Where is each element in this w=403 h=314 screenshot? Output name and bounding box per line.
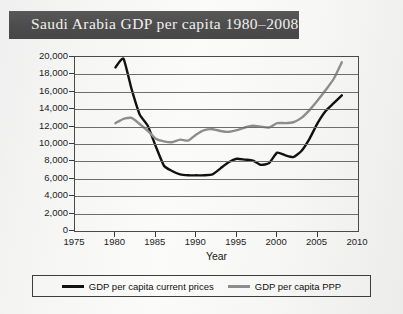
x-axis-tick-label: 2000	[266, 236, 287, 247]
y-axis-tick-mark	[69, 195, 74, 196]
y-axis-tick-label: 12,000	[39, 121, 68, 131]
y-axis-tick-mark	[69, 178, 74, 179]
y-axis-tick-mark	[69, 91, 74, 92]
x-axis-tick-label: 2005	[306, 236, 327, 247]
y-axis-tick-mark	[69, 143, 74, 144]
y-axis-tick-label: 10,000	[39, 138, 68, 148]
x-axis-tick-label: 2010	[346, 236, 367, 247]
x-axis-tick-mark	[276, 232, 277, 237]
gridline	[75, 92, 358, 93]
y-axis-tick-mark	[69, 56, 74, 57]
y-axis-tick-label: 14,000	[39, 103, 68, 113]
gridline	[75, 196, 358, 197]
y-axis-tick-label: 0	[63, 225, 68, 235]
legend-item-ppp: GDP per capita PPP	[228, 281, 341, 292]
gridline	[75, 144, 358, 145]
legend-item-current-prices: GDP per capita current prices	[62, 281, 214, 292]
y-axis-tick-label: 18,000	[39, 68, 68, 78]
gridline	[75, 109, 358, 110]
legend-swatch-ppp	[228, 285, 250, 288]
x-axis-tick-label: 1980	[104, 236, 125, 247]
x-axis-tick-label: 1995	[225, 236, 246, 247]
y-axis-tick-label: 8,000	[44, 155, 68, 165]
y-axis-tick-mark	[69, 160, 74, 161]
y-axis-tick-mark	[69, 213, 74, 214]
y-axis-tick-mark	[69, 73, 74, 74]
y-axis-tick-mark	[69, 126, 74, 127]
plot-area	[74, 56, 359, 232]
x-axis-tick-mark	[317, 232, 318, 237]
y-axis-tick-label: 2,000	[44, 208, 68, 218]
series-line-current-prices	[115, 59, 341, 176]
legend-swatch-current-prices	[62, 285, 84, 288]
gridline	[75, 74, 358, 75]
y-axis-tick-label: 20,000	[39, 51, 68, 61]
chart-legend: GDP per capita current prices GDP per ca…	[32, 275, 371, 297]
gridline	[75, 161, 358, 162]
y-axis-tick-labels: 02,0004,0006,0008,00010,00012,00014,0001…	[0, 56, 68, 232]
x-axis-tick-label: 1975	[63, 236, 84, 247]
y-axis-tick-label: 6,000	[44, 173, 68, 183]
legend-label-ppp: GDP per capita PPP	[255, 281, 341, 292]
x-axis-tick-label: 1985	[144, 236, 165, 247]
y-axis-tick-label: 16,000	[39, 86, 68, 96]
x-axis-tick-mark	[114, 232, 115, 237]
x-axis-tick-label: 1990	[185, 236, 206, 247]
gridline	[75, 214, 358, 215]
chart-page: Saudi Arabia GDP per capita 1980–2008 02…	[0, 0, 403, 314]
gridline	[75, 179, 358, 180]
x-axis-tick-labels: 19751980198519901995200020052010	[74, 236, 359, 250]
title-banner: Saudi Arabia GDP per capita 1980–2008	[9, 11, 299, 39]
chart-container: 02,0004,0006,0008,00010,00012,00014,0001…	[0, 44, 403, 294]
x-axis-title: Year	[74, 250, 359, 262]
x-axis-tick-mark	[195, 232, 196, 237]
legend-label-current-prices: GDP per capita current prices	[89, 281, 214, 292]
x-axis-tick-mark	[236, 232, 237, 237]
y-axis-tick-mark	[69, 230, 74, 231]
x-axis-tick-mark	[155, 232, 156, 237]
gridline	[75, 127, 358, 128]
y-axis-tick-label: 4,000	[44, 190, 68, 200]
page-title: Saudi Arabia GDP per capita 1980–2008	[31, 15, 299, 33]
y-axis-tick-mark	[69, 108, 74, 109]
